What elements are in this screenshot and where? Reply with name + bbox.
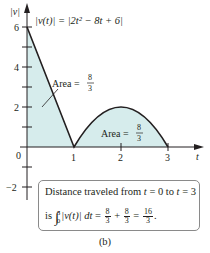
fraction-result: 163 <box>143 208 153 225</box>
area-label-1: Area = <box>52 78 80 89</box>
info-line-1: Distance traveled from t = 0 to t = 3 <box>45 186 196 197</box>
area-label-1-den: 3 <box>88 84 92 93</box>
y-tick-4: 4 <box>14 62 19 73</box>
y-tick-0: 0 <box>16 150 21 161</box>
y-tick-2: 2 <box>14 102 19 113</box>
area-label-1-num: 8 <box>88 73 92 82</box>
x-tick-3: 3 <box>165 152 170 163</box>
x-tick-1: 1 <box>71 152 76 163</box>
fraction: 83 <box>124 208 130 225</box>
y-axis-arrow-icon <box>24 3 30 13</box>
info-text: = 3 <box>180 186 196 197</box>
info-text: = 0 to <box>147 186 177 197</box>
figure-caption: (b) <box>0 236 210 247</box>
distance-info-box: Distance traveled from t = 0 to t = 3 is… <box>38 180 200 231</box>
area-label-2-den: 3 <box>137 134 141 143</box>
fraction: 83 <box>105 208 111 225</box>
function-label: |v(t)| = |2t² − 8t + 6| <box>35 15 123 27</box>
x-axis-arrow-icon <box>194 144 204 150</box>
area-label-2-num: 8 <box>137 123 141 132</box>
y-axis-label: |v| <box>10 6 20 17</box>
y-tick-neg2: −2 <box>6 182 17 193</box>
area-label-2: Area = <box>101 128 129 139</box>
info-line-2: is ∫30|v(t)| dt = 83 + 83 = 163. <box>45 208 157 226</box>
info-text: Distance traveled from <box>45 186 144 197</box>
info-text: is <box>45 210 55 221</box>
integral-limits: 30 <box>57 209 61 225</box>
x-axis-label: t <box>196 151 199 162</box>
integrand: |v(t)| dt <box>61 210 92 221</box>
y-tick-6: 6 <box>14 22 19 33</box>
x-tick-2: 2 <box>118 152 123 163</box>
